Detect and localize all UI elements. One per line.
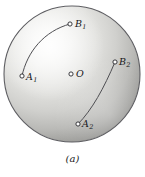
- point-label-a1-text: A: [26, 71, 33, 82]
- sphere-diagram: [0, 0, 145, 152]
- point-label-a1-subscript: 1: [33, 76, 37, 84]
- point-label-o-text: O: [76, 68, 84, 79]
- point-label-a2-text: A: [82, 118, 89, 129]
- point-label-a2-subscript: 2: [89, 123, 93, 131]
- figure-container: B1 A1 O B2 A2 (a): [0, 0, 145, 177]
- point-marker-b1: [68, 22, 72, 26]
- point-label-b2-subscript: 2: [126, 61, 130, 69]
- figure-caption: (a): [0, 154, 145, 164]
- point-label-a2: A2: [82, 119, 93, 131]
- point-marker-o: [69, 72, 73, 76]
- point-label-b1-text: B: [75, 18, 82, 29]
- point-label-a1: A1: [26, 72, 37, 84]
- point-marker-b2: [113, 60, 117, 64]
- point-label-b2-text: B: [119, 56, 126, 67]
- point-label-b1-subscript: 1: [82, 23, 86, 31]
- point-label-o: O: [76, 69, 84, 81]
- point-marker-a2: [76, 122, 80, 126]
- point-label-b2: B2: [119, 57, 130, 69]
- point-label-b1: B1: [75, 19, 86, 31]
- point-marker-a1: [20, 74, 24, 78]
